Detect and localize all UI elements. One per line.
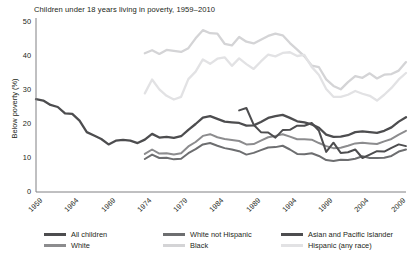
series-line bbox=[145, 30, 406, 89]
legend-label-white: White bbox=[71, 242, 90, 249]
legend-label-black: Black bbox=[190, 242, 208, 249]
axis-lines bbox=[36, 18, 406, 192]
legend-swatch-white-not-hispanic bbox=[163, 233, 185, 236]
legend-item: Hispanic (any race) bbox=[281, 240, 393, 251]
poverty-line-chart: Children under 18 years living in povert… bbox=[0, 0, 412, 259]
legend-swatch-black bbox=[163, 244, 185, 247]
series-line bbox=[145, 143, 406, 161]
series-line bbox=[239, 108, 406, 158]
legend-label-hispanic: Hispanic (any race) bbox=[308, 242, 372, 249]
legend-swatch-white bbox=[44, 244, 66, 247]
legend-label-all-children: All children bbox=[71, 231, 107, 238]
legend-column-3: Asian and Pacific Islander Hispanic (any… bbox=[281, 229, 393, 251]
legend-item: Black bbox=[163, 240, 252, 251]
legend-item: Asian and Pacific Islander bbox=[281, 229, 393, 240]
legend-label-white-not-hispanic: White not Hispanic bbox=[190, 231, 252, 238]
plot-area bbox=[0, 0, 412, 259]
legend-column-1: All children White bbox=[44, 229, 107, 251]
series-lines bbox=[36, 30, 406, 161]
legend-swatch-all-children bbox=[44, 233, 66, 236]
legend-swatch-asian-pacific-islander bbox=[281, 233, 303, 236]
legend-label-asian-pacific-islander: Asian and Pacific Islander bbox=[308, 231, 393, 238]
legend-item: White bbox=[44, 240, 107, 251]
legend-swatch-hispanic bbox=[281, 244, 303, 247]
legend-column-2: White not Hispanic Black bbox=[163, 229, 252, 251]
legend-item: All children bbox=[44, 229, 107, 240]
legend-item: White not Hispanic bbox=[163, 229, 252, 240]
